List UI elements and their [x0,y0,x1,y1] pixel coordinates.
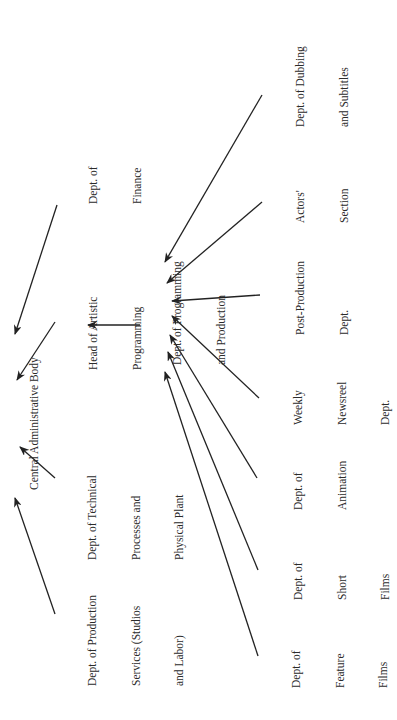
node-label-line: Actors' [293,189,308,224]
node-label-line: Dept. of Production [85,595,100,686]
node-label-line: Dept. of Technical [85,475,100,560]
node-label-line: Central Administrative Body [27,357,42,490]
node-dept-animation: Dept. of Animation [262,461,378,510]
node-dept-programming-production: Dept. of Programming and Production [141,261,257,365]
node-label-line: and Production [214,261,229,365]
edge-dubbing-to-programming [165,95,262,262]
node-dept-dubbing-subtitles: Dept. of Dubbing and Subtitles [264,46,380,127]
node-actors-section: Actors' Section [264,189,380,224]
node-label-line: Feature [333,650,348,688]
node-weekly-newsreel-dept: Weekly Newsreel Dept. [262,382,397,425]
node-post-production-dept: Post-Production Dept. [264,261,380,335]
node-label-line: Services (Studios [129,595,144,686]
node-label-line: Animation [335,461,350,510]
node-label-line: Post-Production [293,261,308,335]
node-label-line: Short [335,562,350,600]
node-label-line: and Labor) [172,595,187,686]
node-label-line: Films [376,650,391,688]
node-label-line: Finance [130,166,145,204]
node-dept-production-services: Dept. of Production Services (Studios an… [56,595,216,686]
edge-production-services-to-central [15,498,55,614]
node-label-line: Dept. [337,261,352,335]
node-label-line: and Subtitles [337,46,352,127]
node-label-line: Dept. of [291,562,306,600]
node-central-administrative-body: Central Administrative Body [0,357,71,490]
edge-finance-to-central [15,205,57,334]
node-label-line: Section [337,189,352,224]
node-dept-short-films: Dept. of Short Films [262,562,397,600]
node-label-line: Newsreel [335,382,350,425]
node-label-line: Processes and [129,475,144,560]
node-label-line: Films [378,562,393,600]
node-label-line: Dept. of Programming [170,261,185,365]
node-label-line: Dept. of [289,650,304,688]
node-dept-technical-processes: Dept. of Technical Processes and Physica… [56,475,216,560]
node-label-line: Dept. [378,382,393,425]
node-label-line: Dept. of Dubbing [293,46,308,127]
node-label-line: Dept. of [86,166,101,204]
node-label-line: Physical Plant [172,475,187,560]
node-dept-feature-films: Dept. of Feature Films [260,650,397,688]
node-dept-finance: Dept. of Finance [57,166,173,204]
node-label-line: Weekly [291,382,306,425]
node-label-line: Dept. of [291,461,306,510]
node-label-line: Head of Artistic [86,297,101,370]
